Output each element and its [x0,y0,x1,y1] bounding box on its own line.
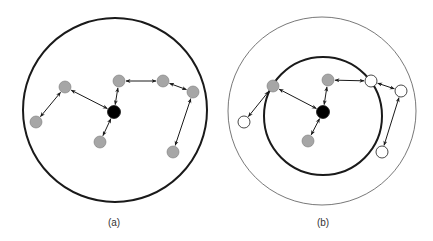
caption-b: (b) [317,217,329,228]
edge-n6-n7 [175,99,191,146]
node-gray-n1 [267,80,279,92]
edge-center-n4 [324,87,327,105]
edge-n1-center [279,89,316,108]
edge-center-n3 [311,119,319,135]
node-gray-n2 [30,116,42,128]
node-black-center [317,106,330,119]
panel-b: (b) [228,17,416,228]
edge-n2-n1 [40,92,60,116]
node-gray-n5 [157,75,169,87]
node-white-n7 [376,146,388,158]
node-gray-n3 [94,136,106,148]
panel-a: (a) [23,18,207,228]
edge-n5-n6 [170,83,187,89]
caption-a: (a) [108,217,120,228]
edge-center-n4 [115,88,118,105]
node-gray-n4 [113,75,125,87]
edge-n6-n7 [384,98,399,146]
node-white-n5 [365,75,377,87]
edge-n1-center [71,90,107,108]
node-gray-n1 [59,81,71,93]
node-white-n6 [395,85,407,97]
edge-center-n3 [103,119,111,136]
node-gray-n6 [187,86,199,98]
edge-n5-n6 [378,83,395,89]
node-white-n2 [238,116,250,128]
node-gray-n7 [167,146,179,158]
edge-n4-n5 [335,80,364,81]
node-gray-n4 [322,74,334,86]
nodes-a [30,75,199,158]
node-black-center [108,106,121,119]
network-diagram: (a) (b) [0,0,433,241]
node-gray-n3 [302,135,314,147]
